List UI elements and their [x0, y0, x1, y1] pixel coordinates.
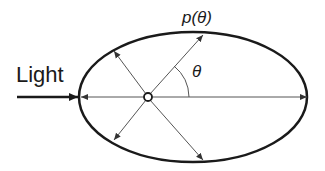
diagram-canvas: Light p(θ) θ — [0, 0, 325, 171]
theta-angle-arc — [174, 66, 189, 97]
scatter-arrows — [81, 35, 307, 160]
scattering-center — [144, 93, 152, 101]
scatter-arrow-forward-down — [150, 100, 203, 160]
scatter-arrow-backward-down — [114, 100, 146, 140]
phase-function-label: p(θ) — [182, 8, 212, 28]
theta-label: θ — [192, 62, 201, 82]
light-label: Light — [16, 62, 64, 88]
scatter-arrow-backward-up — [114, 51, 146, 94]
